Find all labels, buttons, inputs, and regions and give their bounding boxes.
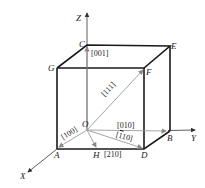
direction-001-label: [001] xyxy=(91,50,108,58)
x-axis xyxy=(28,149,57,172)
point-g-label: G xyxy=(48,64,55,73)
direction-010-label: [010] xyxy=(117,122,134,130)
point-e-label: E xyxy=(171,42,177,51)
x-axis-label: X xyxy=(20,172,26,181)
direction-210-label: [210] xyxy=(104,151,121,159)
point-a-label: A xyxy=(54,151,60,160)
point-h-label: H xyxy=(93,151,100,160)
point-f-label: F xyxy=(146,68,152,77)
point-c-label: C xyxy=(79,40,85,49)
y-axis-label: Y xyxy=(191,134,196,143)
y-axis xyxy=(168,130,195,131)
point-o-label: O xyxy=(82,120,89,129)
point-b-label: B xyxy=(167,134,173,143)
point-d-label: D xyxy=(141,151,148,160)
z-axis-label: Z xyxy=(76,14,81,23)
